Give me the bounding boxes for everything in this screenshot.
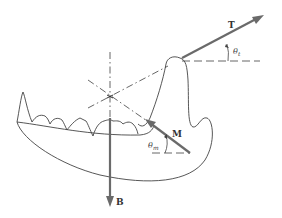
m-label: M	[172, 129, 182, 139]
jaw-body	[17, 57, 212, 181]
b-arrowhead-icon	[106, 196, 114, 207]
m-line-of-action	[88, 80, 150, 123]
vector-b: B	[106, 118, 124, 207]
vector-t: T θ t	[182, 15, 264, 61]
theta-t-subscript: t	[238, 50, 241, 57]
t-arrowhead-icon	[252, 15, 264, 24]
t-arrow-shaft	[182, 19, 256, 58]
molar-teeth	[32, 115, 138, 136]
canine-tooth	[17, 92, 32, 122]
jaw-force-diagram: T θ t M θ m B	[0, 0, 282, 218]
b-label: B	[116, 197, 124, 207]
t-label: T	[228, 20, 235, 30]
mandible-outline	[17, 57, 212, 181]
construction-lines	[88, 52, 168, 123]
theta-m-subscript: m	[153, 144, 159, 151]
vector-m: M θ m	[145, 119, 190, 153]
horizontal-reference-lines	[152, 61, 260, 153]
